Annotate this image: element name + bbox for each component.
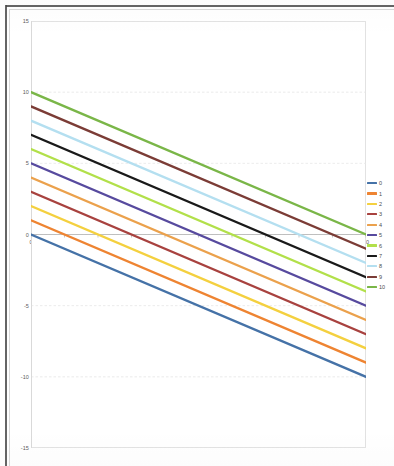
legend-color-swatch — [367, 213, 377, 215]
legend-color-swatch — [367, 192, 377, 194]
legend-item-label: 2 — [379, 201, 382, 207]
legend-item-label: 5 — [379, 232, 382, 238]
legend-item-1[interactable]: 1 — [367, 188, 394, 198]
legend-item-7[interactable]: 7 — [367, 251, 394, 261]
plot-area — [31, 21, 366, 448]
legend-item-label: 3 — [379, 211, 382, 217]
series-line-4 — [31, 178, 366, 320]
legend-color-swatch — [367, 265, 377, 267]
legend-item-5[interactable]: 5 — [367, 230, 394, 240]
scanned-page-frame: 151050-5-10-15 012345678910 012345678910 — [0, 0, 394, 466]
legend-item-0[interactable]: 0 — [367, 178, 394, 188]
page-top-border — [6, 5, 394, 7]
y-tick-label: -5 — [11, 303, 29, 309]
y-tick-label: 10 — [11, 89, 29, 95]
legend-color-swatch — [367, 224, 377, 226]
legend-item-label: 1 — [379, 191, 382, 197]
legend: 012345678910 — [367, 178, 394, 292]
legend-item-10[interactable]: 10 — [367, 282, 394, 292]
legend-item-9[interactable]: 9 — [367, 272, 394, 282]
legend-item-2[interactable]: 2 — [367, 199, 394, 209]
legend-color-swatch — [367, 255, 377, 257]
legend-item-label: 9 — [379, 274, 382, 280]
legend-item-label: 8 — [379, 263, 382, 269]
legend-color-swatch — [367, 182, 377, 184]
legend-item-label: 4 — [379, 222, 382, 228]
y-axis: 151050-5-10-15 — [10, 21, 29, 448]
y-tick-label: 15 — [11, 18, 29, 24]
legend-color-swatch — [367, 286, 377, 288]
legend-item-3[interactable]: 3 — [367, 209, 394, 219]
y-tick-label: -10 — [11, 374, 29, 380]
legend-item-label: 10 — [379, 284, 385, 290]
line-chart: 151050-5-10-15 012345678910 012345678910 — [10, 10, 384, 460]
legend-item-4[interactable]: 4 — [367, 220, 394, 230]
legend-item-label: 0 — [379, 180, 382, 186]
legend-item-8[interactable]: 8 — [367, 261, 394, 271]
y-tick-label: -15 — [11, 445, 29, 451]
legend-color-swatch — [367, 276, 377, 278]
legend-color-swatch — [367, 203, 377, 205]
legend-item-label: 7 — [379, 253, 382, 259]
y-tick-label: 5 — [11, 160, 29, 166]
legend-item-6[interactable]: 6 — [367, 240, 394, 250]
series-line-6 — [31, 149, 366, 291]
legend-color-swatch — [367, 244, 377, 246]
legend-color-swatch — [367, 234, 377, 236]
page-left-border — [5, 5, 7, 466]
legend-item-label: 6 — [379, 243, 382, 249]
